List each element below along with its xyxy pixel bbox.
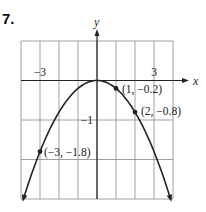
y-axis-arrow-icon xyxy=(95,29,100,36)
parabola-graph: xy−33−1(1, −0.2)(2, −0.8)(−3, −1.8) xyxy=(0,0,206,212)
curve-arrow-icon xyxy=(167,194,172,202)
x-axis-label: x xyxy=(192,74,199,88)
data-point xyxy=(114,86,119,91)
data-point-label: (1, −0.2) xyxy=(122,83,162,96)
data-point-label: (2, −0.8) xyxy=(141,105,181,118)
x-tick-label: 3 xyxy=(151,66,157,78)
curve-arrow-icon xyxy=(22,194,27,202)
x-axis-arrow-icon xyxy=(182,78,189,83)
x-tick-label: −3 xyxy=(34,66,46,78)
y-tick-label: −1 xyxy=(81,114,93,126)
data-point-label: (−3, −1.8) xyxy=(44,146,91,159)
data-point xyxy=(133,110,138,115)
data-point xyxy=(38,149,43,154)
y-axis-label: y xyxy=(93,15,100,29)
